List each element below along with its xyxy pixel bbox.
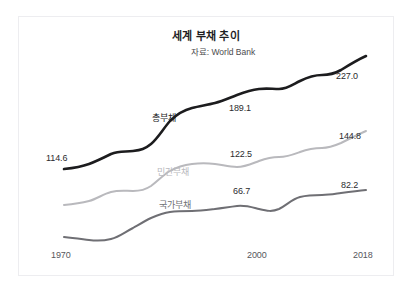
series-line-total-debt	[64, 56, 366, 169]
series-label-government-debt: 국가부채	[159, 198, 191, 211]
value-label-private-end: 144.8	[339, 131, 361, 141]
value-label-government-mid: 66.7	[233, 186, 250, 196]
xtick-1970: 1970	[51, 250, 71, 260]
series-label-private-debt: 민간부채	[157, 165, 189, 178]
value-label-total-start: 114.6	[46, 153, 67, 163]
chart-frame: 세계 부채 추이 자료: World Bank 114.6 189.1 227.…	[18, 16, 394, 276]
series-label-total-debt: 총부채	[152, 111, 176, 124]
value-label-total-end: 227.0	[336, 71, 358, 81]
line-chart-plot	[19, 17, 395, 277]
xtick-2018: 2018	[353, 250, 373, 260]
xtick-2000: 2000	[247, 250, 267, 260]
value-label-government-end: 82.2	[341, 180, 358, 190]
series-line-private-debt	[64, 131, 366, 205]
value-label-private-mid: 122.5	[230, 149, 252, 159]
value-label-total-mid: 189.1	[229, 103, 251, 113]
series-line-government-debt	[64, 190, 366, 241]
